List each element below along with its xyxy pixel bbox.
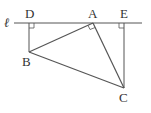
line-label: ℓ (4, 15, 10, 30)
geometry-diagram: ℓ D A E B C (0, 0, 151, 113)
label-d: D (25, 6, 34, 21)
right-angle-e-icon (119, 23, 124, 28)
label-c: C (119, 90, 128, 105)
label-b: B (22, 54, 31, 69)
right-angle-d-icon (29, 23, 34, 28)
label-a: A (88, 6, 98, 21)
segment-ab (29, 23, 93, 52)
label-e: E (120, 6, 128, 21)
